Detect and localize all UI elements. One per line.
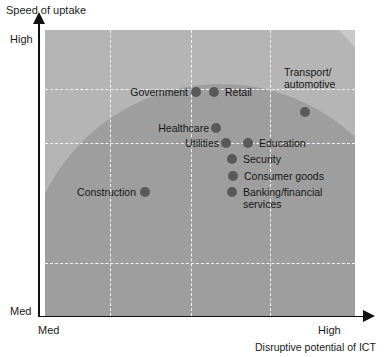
y-tick-high: High: [10, 33, 33, 45]
data-point-healthcare[interactable]: [211, 123, 221, 133]
data-point-security[interactable]: [227, 154, 237, 164]
gridline-vertical: [110, 30, 111, 316]
y-axis-title: Speed of uptake: [6, 4, 86, 16]
x-axis-title: Disruptive potential of ICT: [255, 341, 376, 353]
x-tick-med: Med: [38, 324, 59, 336]
gridline-horizontal: [45, 263, 355, 264]
scatter-chart: Speed of uptake Disruptive potential of …: [0, 0, 387, 357]
label-healthcare: Healthcare: [149, 123, 209, 135]
label-education: Education: [259, 138, 306, 150]
y-tick-med: Med: [10, 305, 31, 317]
x-axis-arrow-icon: [363, 310, 375, 322]
data-point-construction[interactable]: [140, 187, 150, 197]
data-point-retail[interactable]: [209, 87, 219, 97]
data-point-transport-automotive[interactable]: [300, 107, 310, 117]
y-axis-line: [38, 22, 40, 317]
data-point-education[interactable]: [243, 138, 253, 148]
label-transport-automotive-line2: automotive: [284, 79, 335, 91]
label-retail: Retail: [225, 87, 252, 99]
plot-area: Government Retail Transport/ automotive …: [45, 30, 355, 316]
data-point-utilities[interactable]: [221, 138, 231, 148]
label-banking-financial-services-line2: services: [243, 199, 282, 211]
label-security: Security: [243, 154, 281, 166]
label-government: Government: [128, 87, 188, 99]
data-point-government[interactable]: [191, 87, 201, 97]
label-transport-automotive-line1: Transport/: [284, 67, 331, 79]
x-tick-high: High: [318, 324, 341, 336]
gridline-vertical: [191, 30, 192, 316]
data-point-banking-financial-services[interactable]: [227, 187, 237, 197]
data-point-consumer-goods[interactable]: [228, 171, 238, 181]
label-utilities: Utilities: [173, 138, 219, 150]
label-consumer-goods: Consumer goods: [244, 171, 324, 183]
label-construction: Construction: [70, 187, 136, 199]
label-banking-financial-services-line1: Banking/financial: [243, 187, 322, 199]
